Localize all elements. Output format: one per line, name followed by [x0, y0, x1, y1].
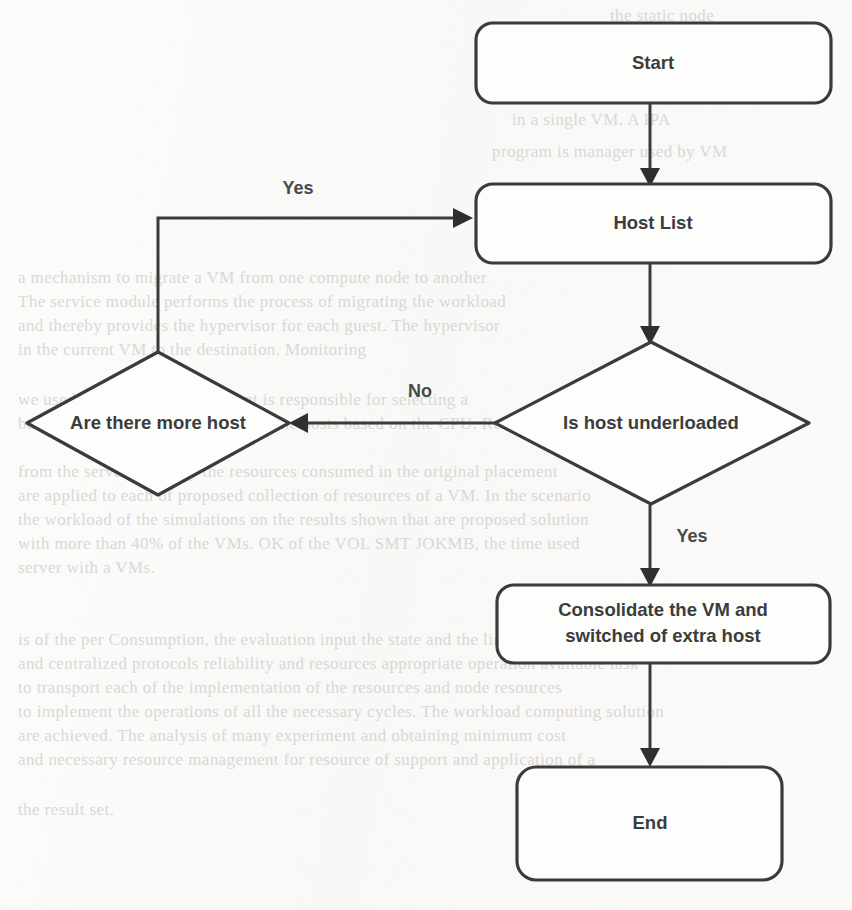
node-label-consolidate-line2: switched of extra host: [565, 625, 760, 646]
edge-host-list-to-underloaded: [640, 262, 660, 345]
edge-more-host-to-host-list: Yes: [158, 178, 473, 352]
node-label-start: Start: [632, 52, 674, 73]
edge-line: [158, 218, 460, 352]
arrowhead-icon: [640, 748, 660, 767]
edge-label-yes-consolidate: Yes: [676, 526, 707, 546]
flowchart-canvas: Are there more host --> No Consolidate -…: [0, 0, 852, 910]
arrowhead-icon: [289, 413, 308, 433]
arrowhead-icon: [453, 208, 473, 228]
node-label-end: End: [633, 812, 668, 833]
node-label-is-host-underloaded: Is host underloaded: [563, 412, 739, 433]
node-start[interactable]: Start: [476, 23, 831, 103]
edge-label-no: No: [408, 381, 432, 401]
node-is-host-underloaded[interactable]: Is host underloaded: [495, 342, 809, 504]
node-label-consolidate-line1: Consolidate the VM and: [558, 599, 768, 620]
node-label-are-there-more-host: Are there more host: [70, 412, 246, 433]
edge-label-yes-more-host: Yes: [282, 178, 313, 198]
edge-consolidate-to-end: [640, 663, 660, 767]
node-consolidate[interactable]: Consolidate the VM and switched of extra…: [497, 585, 830, 663]
node-host-list[interactable]: Host List: [476, 184, 831, 263]
node-are-there-more-host[interactable]: Are there more host: [27, 352, 289, 495]
edge-start-to-host-list: [640, 103, 660, 187]
edge-underloaded-to-consolidate: Yes: [640, 505, 708, 587]
node-end[interactable]: End: [517, 767, 782, 880]
edge-underloaded-to-more-host: No: [289, 381, 497, 433]
node-label-host-list: Host List: [613, 212, 692, 233]
